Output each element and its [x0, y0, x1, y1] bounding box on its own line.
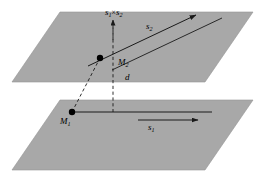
label-s1-sub: 1 [152, 127, 155, 133]
label-distance: d [125, 73, 130, 82]
upper-plane [12, 12, 253, 82]
label-m1-sub: 1 [68, 121, 71, 127]
label-m1-base: M [60, 116, 68, 126]
diagram-canvas [0, 0, 270, 173]
label-point-upper: M2 [118, 58, 129, 68]
lower-plane [12, 100, 253, 170]
label-cross-s2-sub: 2 [119, 12, 122, 18]
label-s2-sub: 2 [150, 26, 153, 32]
label-cross-product: s1×s2 [105, 8, 122, 18]
label-m2-base: M [118, 57, 126, 67]
point-m1-marker [69, 109, 75, 115]
label-direction-lower: s1 [148, 123, 155, 133]
label-m2-sub: 2 [126, 62, 129, 68]
figure-container: s1×s2 s2 M2 d M1 s1 [0, 0, 270, 173]
label-point-lower: M1 [60, 117, 71, 127]
point-m2-marker [97, 55, 103, 61]
label-direction-upper: s2 [146, 22, 153, 32]
